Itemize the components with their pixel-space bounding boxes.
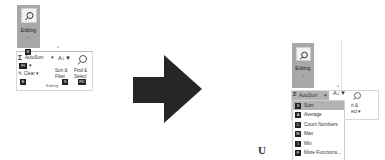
stray-glyph: U — [258, 144, 266, 156]
magnifier-icon — [352, 91, 362, 101]
right-arrow-icon — [133, 55, 203, 123]
left-find-select-button[interactable]: Find & Select — [74, 52, 90, 82]
clear-caret: ▾ — [36, 71, 39, 76]
sort-filter-icon: A↓▼ — [333, 90, 346, 96]
key-badge: I — [295, 141, 301, 147]
left-group-label: Editing — [46, 83, 58, 88]
fill-caret: ▾ — [29, 63, 32, 68]
find-select-label-1: Find & — [74, 68, 87, 73]
magnifier-icon — [76, 54, 88, 66]
right-ribbon-divider — [341, 40, 342, 92]
item-label: More Functions... — [304, 150, 341, 155]
editing-label: Editing — [17, 27, 40, 33]
left-sort-filter-button[interactable]: A↓▼ Sort & Filter — [57, 55, 71, 82]
sort-filter-icon: A↓▼ — [58, 55, 71, 61]
autosum-caret: ▾ — [51, 55, 54, 60]
left-collapse-caret[interactable]: ^ — [57, 45, 59, 50]
clear-label: Clear — [24, 71, 35, 76]
chevron-down-icon: ⌄ — [17, 34, 40, 39]
dropdown-item-max[interactable]: M Max — [293, 130, 344, 139]
sigma-icon: Σ — [293, 91, 297, 97]
left-editing-button[interactable]: Editing ⌄ — [17, 5, 40, 48]
autosum-label: AutoSum — [25, 55, 44, 60]
item-label: Average — [304, 112, 322, 117]
partial-label-1: rt & — [351, 103, 358, 108]
dropdown-item-min[interactable]: I Min — [293, 139, 344, 148]
fill-key-badge: FI — [19, 63, 27, 69]
chevron-down-icon: ⌄ — [292, 72, 314, 77]
clear-key-badge: E — [20, 79, 26, 85]
item-label: Sum — [304, 103, 314, 108]
key-badge: C — [295, 122, 301, 128]
key-badge: M — [295, 131, 301, 137]
autosum-dropdown-menu: S Sum A Average C Count Numbers M Max I … — [292, 100, 345, 160]
left-fill-button[interactable]: FI ▾ — [18, 63, 38, 70]
left-autosum-button[interactable]: Σ AutoSum ▾ — [18, 54, 58, 62]
editing-label: Editing — [292, 65, 314, 71]
magnifier-icon — [21, 8, 37, 23]
key-badge: A — [295, 112, 301, 118]
right-editing-button[interactable]: Editing ⌄ — [292, 43, 314, 88]
item-label: Count Numbers — [304, 122, 338, 127]
dropdown-item-sum[interactable]: S Sum — [293, 101, 344, 110]
dropdown-item-count-numbers[interactable]: C Count Numbers — [293, 120, 344, 129]
eraser-icon: ✎ — [18, 71, 22, 76]
sigma-icon: Σ — [18, 54, 22, 61]
magnifier-icon — [296, 47, 311, 61]
autosum-caret: ▾ — [324, 93, 327, 98]
dropdown-item-more-functions[interactable]: F More Functions... — [293, 149, 344, 158]
autosum-label: AutoSum — [299, 93, 318, 98]
item-label: Min — [304, 141, 312, 146]
find-select-key-badge: FD — [78, 79, 86, 85]
sort-filter-label-1: Sort & — [55, 68, 68, 73]
key-badge: F — [295, 150, 301, 156]
item-label: Max — [304, 131, 313, 136]
sort-filter-key-badge: S — [62, 79, 68, 85]
partial-label-2: ect ▾ — [351, 109, 361, 114]
left-clear-button[interactable]: ✎ Clear ▾ — [18, 71, 44, 78]
dropdown-item-average[interactable]: A Average — [293, 111, 344, 120]
right-autosum-button[interactable]: Σ AutoSum ▾ — [292, 91, 329, 100]
right-collapse-caret[interactable]: ^ — [337, 84, 339, 89]
key-badge: S — [295, 103, 301, 109]
